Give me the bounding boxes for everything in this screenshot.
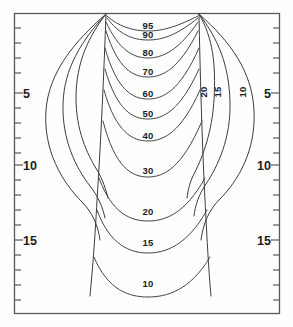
contour-label-40: 40 (142, 130, 153, 141)
contour-label-70: 70 (142, 66, 153, 77)
contour-flank-label-15: 15 (212, 86, 223, 98)
left-axis-label-15: 15 (23, 234, 37, 248)
right-axis-ticks (271, 28, 280, 300)
left-axis-label-5: 5 (23, 87, 30, 101)
contour-label-50: 50 (142, 108, 153, 119)
right-axis-labels: 5 10 15 (257, 87, 271, 248)
contour-label-10: 10 (142, 278, 153, 289)
contour-label-90: 90 (142, 29, 153, 40)
contour-label-80: 80 (142, 47, 153, 58)
right-axis-label-15: 15 (257, 234, 271, 248)
contour-center-labels: 95 90 80 70 60 50 40 30 20 15 10 (142, 20, 154, 289)
left-axis-label-10: 10 (23, 159, 37, 173)
plot-frame (15, 14, 280, 314)
left-axis-labels: 5 10 15 (23, 87, 37, 248)
contour-plot-canvas: 5 10 15 5 10 15 95 90 80 70 60 50 40 30 … (0, 0, 293, 327)
right-axis-label-10: 10 (257, 159, 271, 173)
contour-label-20: 20 (142, 206, 153, 217)
contour-flank-label-20: 20 (198, 86, 209, 97)
left-axis-ticks (15, 28, 24, 300)
contour-label-30: 30 (142, 165, 153, 176)
contour-flank-label-10: 10 (237, 86, 248, 97)
contour-plot-figure: 5 10 15 5 10 15 95 90 80 70 60 50 40 30 … (0, 0, 293, 327)
right-axis-label-5: 5 (264, 87, 271, 101)
contour-label-15: 15 (142, 237, 154, 248)
central-contours (94, 16, 210, 297)
contour-label-60: 60 (142, 88, 153, 99)
contour-flank-labels: 20 15 10 (198, 86, 248, 98)
